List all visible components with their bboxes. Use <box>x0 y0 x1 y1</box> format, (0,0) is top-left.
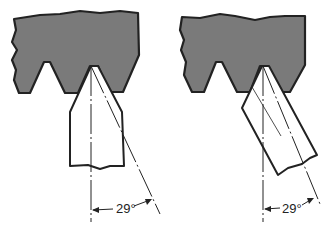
right-arrow-left-icon <box>264 206 271 212</box>
left-view: 29° <box>12 11 160 222</box>
right-arrow-right-icon <box>307 198 314 204</box>
left-workpiece <box>12 11 139 93</box>
right-angle-label: 29° <box>282 201 302 216</box>
right-workpiece <box>180 14 305 92</box>
diagram-canvas: 29° 29° <box>0 0 330 235</box>
left-arrow-right-icon <box>145 199 152 205</box>
right-view: 29° <box>180 14 320 222</box>
left-angle-label: 29° <box>116 201 136 216</box>
left-arrow-left-icon <box>92 207 99 213</box>
